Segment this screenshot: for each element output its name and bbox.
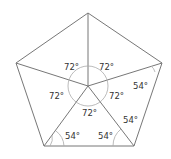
angle-label-bottom-right-upper: 54° xyxy=(123,115,138,125)
center-spokes xyxy=(16,13,162,146)
angle-label-right-vertex: 54° xyxy=(133,81,148,91)
angle-label-bottom-right-left: 54° xyxy=(98,131,113,141)
angle-label-left: 72° xyxy=(49,91,64,101)
angle-label-bottom: 72° xyxy=(82,108,97,118)
angle-label-upper-right: 72° xyxy=(99,62,114,72)
pentagon-diagram: 72° 72° 72° 72° 72° 54° 54° 54° 54° xyxy=(0,0,171,159)
angle-label-right: 72° xyxy=(109,91,124,101)
angle-label-upper-left: 72° xyxy=(64,62,79,72)
pentagon-outline xyxy=(16,13,162,146)
angle-label-bottom-left: 54° xyxy=(65,131,80,141)
